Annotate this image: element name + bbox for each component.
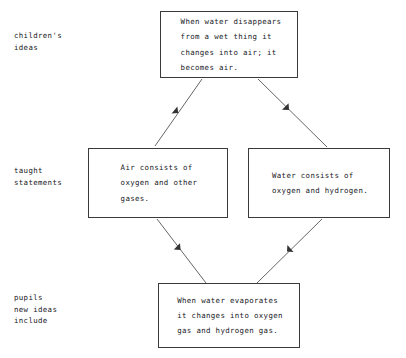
node-pupils-idea-text: When water evaporates it changes into ox… (177, 293, 283, 339)
edge-water-to-pupils (257, 219, 322, 283)
node-pupils-idea: When water evaporates it changes into ox… (158, 283, 300, 348)
node-childrens-idea: When water disappears from a wet thing i… (160, 11, 298, 78)
concept-flow-diagram: children's ideas taught statements pupil… (0, 0, 406, 358)
edge-childrens-to-water (258, 79, 327, 147)
node-water-statement: Water consists of oxygen and hydrogen. (248, 148, 390, 218)
row-label-taught-statements: taught statements (14, 165, 62, 188)
row-label-pupils-new-ideas: pupils new ideas include (14, 292, 57, 327)
row-label-childrens-ideas: children's ideas (14, 30, 62, 53)
edge-childrens-to-air (155, 79, 202, 146)
node-childrens-idea-text: When water disappears from a wet thing i… (181, 14, 282, 75)
node-air-statement: Air consists of oxygen and other gases. (88, 148, 228, 218)
edge-air-to-pupils (157, 219, 206, 283)
node-air-statement-text: Air consists of oxygen and other gases. (121, 160, 198, 206)
node-water-statement-text: Water consists of oxygen and hydrogen. (272, 168, 368, 198)
